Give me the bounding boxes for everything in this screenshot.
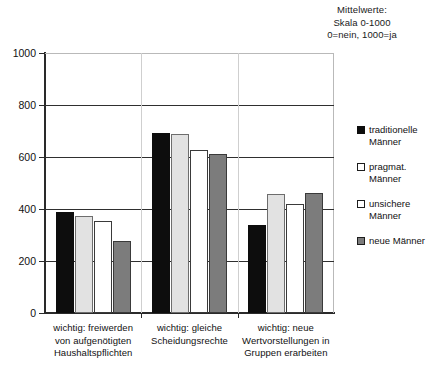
legend-swatch-icon: [357, 126, 365, 134]
x-axis-category-label-line: wichtig: neue: [226, 322, 346, 335]
bar: [190, 150, 208, 313]
y-axis-tick-mark: [39, 209, 45, 210]
bar: [152, 133, 170, 313]
legend-item-label: traditionelle Männer: [369, 124, 447, 148]
legend-swatch-icon: [357, 237, 365, 245]
x-axis-tick-mark: [141, 313, 142, 318]
annotation-line-3: 0=nein, 1000=ja: [282, 29, 442, 42]
y-axis-tick-mark: [39, 53, 45, 54]
legend-item[interactable]: pragmat. Männer: [357, 161, 447, 185]
bar: [171, 134, 189, 313]
annotation-line-1: Mittelwerte:: [282, 4, 442, 17]
bar: [209, 154, 227, 313]
legend-item[interactable]: unsichere Männer: [357, 198, 447, 222]
bar: [75, 216, 93, 314]
bar: [113, 241, 131, 313]
chart-annotation: Mittelwerte: Skala 0-1000 0=nein, 1000=j…: [282, 4, 442, 42]
legend-item[interactable]: traditionelle Männer: [357, 124, 447, 148]
annotation-line-2: Skala 0-1000: [282, 17, 442, 30]
x-axis-category-label-line: Wertvorstellungen in: [226, 335, 346, 348]
y-axis-tick-mark: [39, 105, 45, 106]
y-axis-tick-mark: [39, 157, 45, 158]
bar: [56, 212, 74, 313]
legend-item-label: neue Männer: [369, 235, 447, 247]
group-separator: [238, 53, 239, 313]
chart-legend: traditionelle Männerpragmat. Männerunsic…: [357, 124, 447, 260]
x-axis-tick-mark: [238, 313, 239, 318]
bar: [248, 225, 266, 313]
plot-frame-top: [45, 53, 334, 54]
bar: [286, 204, 304, 313]
bar: [267, 194, 285, 313]
group-separator: [141, 53, 142, 313]
x-axis-category-label: wichtig: neueWertvorstellungen inGruppen…: [226, 322, 346, 360]
y-axis-tick-mark: [39, 313, 45, 314]
plot-frame-right: [333, 53, 334, 313]
x-axis-category-label-line: Gruppen erarbeiten: [226, 347, 346, 360]
clipped-caption-fragment: Abb.: [3, 0, 63, 2]
legend-item[interactable]: neue Männer: [357, 235, 447, 247]
legend-swatch-icon: [357, 163, 365, 171]
legend-item-label: pragmat. Männer: [369, 161, 447, 185]
bar: [305, 193, 323, 313]
gridline: [45, 105, 334, 106]
legend-swatch-icon: [357, 200, 365, 208]
clipped-caption-text: Abb.: [3, 0, 63, 2]
plot-area: 02004006008001000: [45, 53, 334, 313]
bar: [94, 221, 112, 313]
y-axis-tick-mark: [39, 261, 45, 262]
legend-item-label: unsichere Männer: [369, 198, 447, 222]
x-axis-category-label-line: Haushaltspflichten: [33, 347, 153, 360]
